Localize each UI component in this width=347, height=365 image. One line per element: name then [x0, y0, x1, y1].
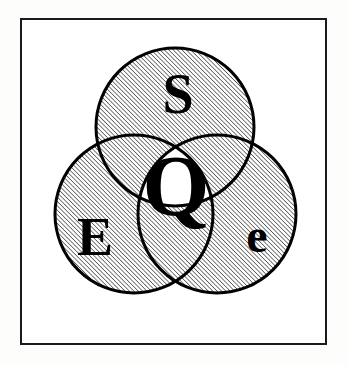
label-s: S: [162, 63, 193, 125]
venn-figure: S E e Q: [0, 0, 347, 365]
label-e-lower: e: [246, 209, 267, 262]
venn-diagram-canvas: S E e Q: [0, 0, 347, 365]
label-q: Q: [143, 138, 210, 234]
label-e-upper: E: [77, 207, 113, 267]
